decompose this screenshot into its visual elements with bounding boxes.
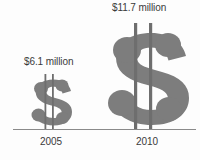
axis-baseline: [13, 129, 196, 130]
pictograph-chart: $11.7 million $6.1 million: [0, 0, 200, 160]
category-label-2005: 2005: [33, 136, 69, 148]
dollar-sign-icon-2010: [105, 23, 189, 130]
value-label-2005: $6.1 million: [24, 56, 73, 68]
category-label-2010: 2010: [128, 136, 166, 148]
value-label-2010: $11.7 million: [112, 2, 166, 14]
dollar-sign-icon-2005: [30, 74, 72, 130]
